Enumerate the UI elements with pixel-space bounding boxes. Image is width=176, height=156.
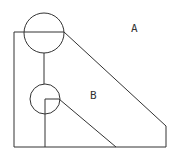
inner-shape <box>45 99 116 147</box>
label-b: B <box>90 89 97 102</box>
diagram-canvas: A B <box>0 0 176 156</box>
geometry-diagram: A B <box>0 0 176 156</box>
large-circle <box>24 13 64 53</box>
label-a: A <box>131 22 138 35</box>
